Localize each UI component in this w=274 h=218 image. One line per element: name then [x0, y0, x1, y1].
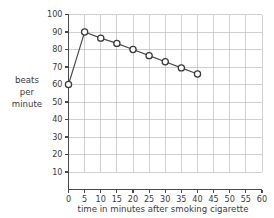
y-tick-label: 100 — [47, 9, 62, 19]
data-point-marker — [194, 71, 200, 77]
y-tick-label: 70 — [52, 62, 62, 72]
y-tick-label: 90 — [52, 27, 62, 37]
x-tick-label: 40 — [192, 194, 202, 204]
x-tick-label: 35 — [176, 194, 186, 204]
y-axis-title-line-2: per — [20, 87, 35, 97]
y-tick-label: 50 — [52, 97, 62, 107]
data-point-marker — [98, 35, 104, 41]
x-tick-label: 5 — [82, 194, 87, 204]
x-tick-label: 50 — [225, 194, 235, 204]
x-tick-label: 25 — [144, 194, 154, 204]
data-point-marker — [130, 46, 136, 52]
y-tick-label: 80 — [52, 44, 62, 54]
x-tick-label: 60 — [257, 194, 267, 204]
data-point-marker — [82, 29, 88, 35]
y-tick-label: 30 — [52, 132, 62, 142]
x-tick-label: 0 — [66, 194, 71, 204]
data-point-marker — [178, 65, 184, 71]
chart-container: 102030405060708090100 051015202530354045… — [0, 0, 274, 218]
y-axis-tick-labels: 102030405060708090100 — [47, 9, 62, 177]
y-axis-title: beats per minute — [12, 75, 42, 109]
x-tick-label: 55 — [241, 194, 251, 204]
data-point-marker — [146, 53, 152, 59]
x-tick-label: 10 — [96, 194, 106, 204]
data-point-marker — [162, 59, 168, 65]
y-tick-label: 60 — [52, 79, 62, 89]
x-tick-label: 45 — [208, 194, 218, 204]
y-tick-label: 40 — [52, 114, 62, 124]
data-point-marker — [65, 81, 71, 87]
y-tick-label: 20 — [52, 149, 62, 159]
vertical-gridlines — [85, 15, 262, 173]
x-tick-label: 20 — [128, 194, 138, 204]
x-tick-label: 15 — [112, 194, 122, 204]
y-axis-title-line-1: beats — [15, 75, 39, 85]
x-axis-title: time in minutes after smoking cigarette — [78, 204, 249, 214]
y-axis-title-line-3: minute — [12, 99, 42, 109]
x-tick-label: 30 — [160, 194, 170, 204]
x-axis-tick-labels: 051015202530354045505560 — [66, 194, 267, 204]
line-chart: 102030405060708090100 051015202530354045… — [0, 0, 274, 218]
data-point-marker — [114, 40, 120, 46]
y-tick-label: 10 — [52, 167, 62, 177]
